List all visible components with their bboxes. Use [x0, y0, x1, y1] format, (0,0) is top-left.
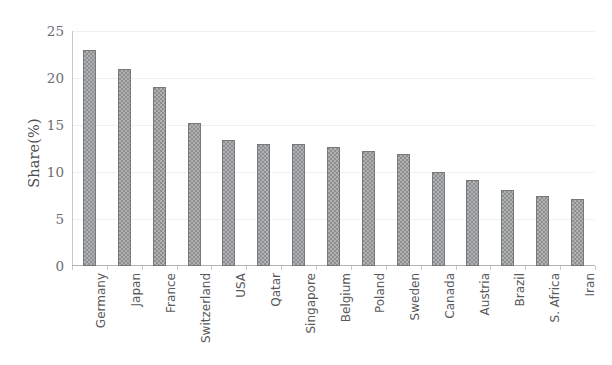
y-axis-tick-label: 25	[32, 23, 64, 39]
x-axis-tick-mark	[142, 266, 143, 270]
x-axis-tick-mark	[316, 266, 317, 270]
x-axis-tick-mark	[246, 266, 247, 270]
x-axis-tick-mark	[595, 266, 596, 270]
x-axis-category-label: Japan	[129, 273, 143, 365]
x-axis-category-label: USA	[234, 273, 248, 365]
x-axis-category-label: Belgium	[339, 273, 353, 365]
y-axis-tick-labels: 0510152025	[32, 0, 64, 365]
x-axis-category-label: Austria	[478, 273, 492, 365]
bar	[466, 180, 479, 266]
bar	[397, 154, 410, 266]
y-axis-tick-label: 15	[32, 117, 64, 133]
y-axis-tick-label: 10	[32, 164, 64, 180]
bar-chart: Share(%) 0510152025 GermanyJapanFranceSw…	[0, 0, 612, 365]
bar	[222, 140, 235, 266]
plot-area	[72, 31, 595, 266]
x-axis-category-label: Sweden	[408, 273, 422, 365]
y-axis-tick-label: 0	[32, 258, 64, 274]
x-axis-tick-mark	[351, 266, 352, 270]
x-axis-tick-mark	[177, 266, 178, 270]
x-axis-category-label: Canada	[443, 273, 457, 365]
x-axis-tick-mark	[107, 266, 108, 270]
x-axis-tick-mark	[490, 266, 491, 270]
x-axis-tick-mark	[560, 266, 561, 270]
bar	[118, 69, 131, 266]
bar	[188, 123, 201, 266]
y-axis-tick-label: 5	[32, 211, 64, 227]
bar	[536, 196, 549, 266]
x-axis-tick-mark	[211, 266, 212, 270]
x-axis-category-label: S. Africa	[548, 273, 562, 365]
bar	[83, 50, 96, 266]
x-axis-category-label: Singapore	[304, 273, 318, 365]
x-axis-category-label: Switzerland	[199, 273, 213, 365]
x-axis-category-label: Qatar	[269, 273, 283, 365]
bar	[362, 151, 375, 266]
bar	[432, 172, 445, 266]
x-axis-category-label: Iran	[583, 273, 597, 365]
x-axis-tick-mark	[72, 266, 73, 270]
x-axis-category-label: Germany	[94, 273, 108, 365]
x-axis-category-label: France	[164, 273, 178, 365]
bar	[571, 199, 584, 266]
x-axis-category-labels: GermanyJapanFranceSwitzerlandUSAQatarSin…	[72, 271, 595, 365]
bar	[327, 147, 340, 266]
bar	[501, 190, 514, 266]
x-axis-tick-mark	[421, 266, 422, 270]
x-axis-tick-mark	[281, 266, 282, 270]
y-axis-tick-label: 20	[32, 70, 64, 86]
bar	[153, 87, 166, 266]
x-axis-category-label: Poland	[373, 273, 387, 365]
x-axis-tick-mark	[456, 266, 457, 270]
bar-series	[72, 31, 595, 266]
bar	[292, 144, 305, 266]
x-axis-tick-mark	[386, 266, 387, 270]
bar	[257, 144, 270, 266]
x-axis-tick-mark	[525, 266, 526, 270]
x-axis-category-label: Brazil	[513, 273, 527, 365]
